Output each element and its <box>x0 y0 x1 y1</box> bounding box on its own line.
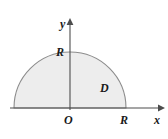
figure-canvas: y x R O R D <box>0 0 168 139</box>
y-tick-label-R: R <box>55 45 64 59</box>
math-figure: y x R O R D <box>0 0 168 139</box>
x-axis-arrowhead <box>158 105 165 112</box>
x-tick-label-R: R <box>119 113 128 127</box>
y-axis-arrowhead <box>67 18 74 25</box>
x-axis-label: x <box>153 113 160 127</box>
region-label-D: D <box>99 81 109 95</box>
origin-label: O <box>64 113 73 127</box>
y-axis-label: y <box>58 17 66 31</box>
